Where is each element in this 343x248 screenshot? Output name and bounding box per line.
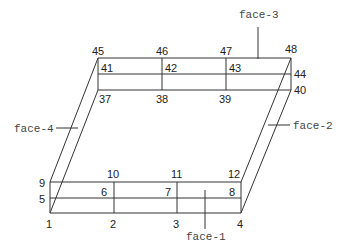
node-label-2: 2 xyxy=(110,218,116,230)
face-4-label: face-4 xyxy=(14,123,54,135)
node-label-7: 7 xyxy=(165,186,171,198)
node-label-41: 41 xyxy=(101,62,113,74)
mesh-diagram: 123456789101112373839404142434445464748 … xyxy=(0,0,343,248)
node-label-6: 6 xyxy=(101,186,107,198)
node-label-42: 42 xyxy=(165,62,177,74)
face-2-label: face-2 xyxy=(293,120,333,132)
node-label-3: 3 xyxy=(173,218,179,230)
node-label-44: 44 xyxy=(294,68,306,80)
left-bottom-edge xyxy=(50,90,98,213)
mesh-diagram-svg: 123456789101112373839404142434445464748 … xyxy=(0,0,343,248)
node-label-10: 10 xyxy=(107,168,119,180)
face-1-label: face-1 xyxy=(186,231,226,243)
node-label-8: 8 xyxy=(229,186,235,198)
node-label-39: 39 xyxy=(219,93,231,105)
node-label-45: 45 xyxy=(92,45,104,57)
node-labels: 123456789101112373839404142434445464748 xyxy=(39,43,306,230)
node-label-46: 46 xyxy=(156,45,168,57)
node-label-47: 47 xyxy=(220,45,232,57)
face-leader-lines xyxy=(56,27,290,229)
node-label-37: 37 xyxy=(99,93,111,105)
node-label-4: 4 xyxy=(237,218,243,230)
right-bottom-edge xyxy=(241,90,291,213)
node-label-12: 12 xyxy=(228,168,240,180)
node-label-40: 40 xyxy=(294,84,306,96)
node-label-9: 9 xyxy=(39,177,45,189)
node-label-48: 48 xyxy=(285,43,297,55)
face-3-label: face-3 xyxy=(239,9,279,21)
left-top-edge xyxy=(50,58,98,182)
node-label-11: 11 xyxy=(171,168,182,180)
right-top-edge xyxy=(241,58,291,182)
node-label-38: 38 xyxy=(156,93,168,105)
node-label-1: 1 xyxy=(46,218,52,230)
node-label-5: 5 xyxy=(39,193,45,205)
node-label-43: 43 xyxy=(229,62,241,74)
